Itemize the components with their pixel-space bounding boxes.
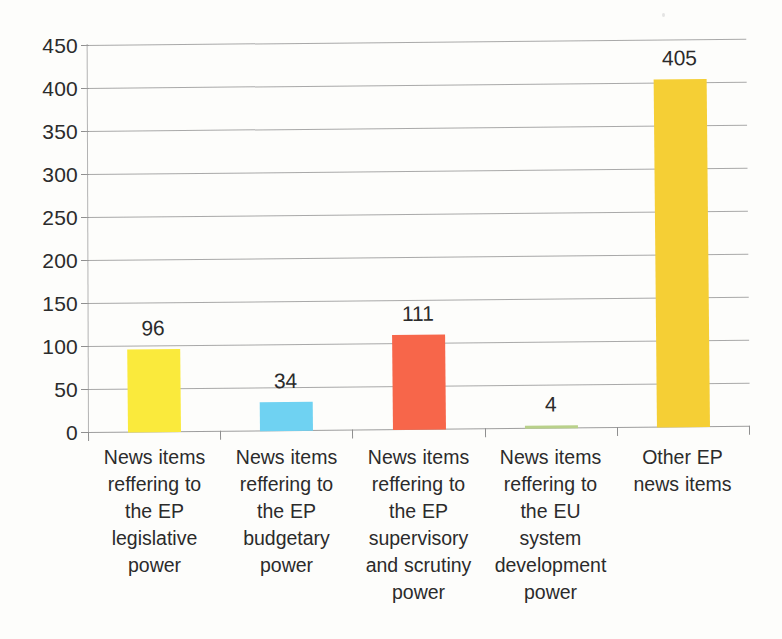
gridline-350 xyxy=(85,125,747,132)
y-tick-label-450: 450 xyxy=(16,35,78,56)
x-axis-tick xyxy=(485,428,486,437)
x-axis-label-line: the EP xyxy=(89,498,220,525)
x-axis-label-line: power xyxy=(89,552,220,579)
bar-news-items-ep-budgetary-power[interactable] xyxy=(260,402,313,432)
bar-other-ep-news-items[interactable] xyxy=(654,79,710,428)
y-tick-label-200: 200 xyxy=(16,250,78,271)
x-axis-label-category-2: News items reffering to the EP budgetary… xyxy=(221,444,352,579)
x-axis-tick xyxy=(749,426,750,435)
x-axis-label-line: development xyxy=(485,552,616,579)
x-axis-label-line: the EP xyxy=(353,498,484,525)
x-axis-label-line: reffering to xyxy=(89,471,220,498)
y-tick-label-400: 400 xyxy=(16,78,78,99)
x-axis-label-line: News items xyxy=(485,444,616,471)
x-axis-label-line: the EU xyxy=(485,498,616,525)
x-axis-category-labels: News items reffering to the EP legislati… xyxy=(88,444,750,629)
x-axis-label-line: system xyxy=(485,525,616,552)
gridline-450 xyxy=(84,39,746,46)
x-axis-label-line: power xyxy=(221,552,352,579)
x-axis-tick xyxy=(617,427,618,436)
x-axis-label-line: power xyxy=(485,579,616,606)
x-axis-label-category-1: News items reffering to the EP legislati… xyxy=(89,444,220,579)
gridline-300 xyxy=(86,168,748,175)
x-axis-label-line: News items xyxy=(353,444,484,471)
x-axis-label-line: News items xyxy=(89,444,220,471)
gridline-400 xyxy=(85,82,747,89)
y-tick-label-0: 0 xyxy=(16,422,78,443)
y-axis-tick-labels: 450 400 350 300 250 200 150 100 50 0 xyxy=(10,0,78,639)
x-axis-label-line: legislative xyxy=(89,525,220,552)
x-axis-label-category-3: News items reffering to the EP superviso… xyxy=(353,444,484,606)
x-axis-label-line: power xyxy=(353,579,484,606)
y-tick-label-350: 350 xyxy=(16,121,78,142)
x-axis-label-line: News items xyxy=(221,444,352,471)
x-axis-label-line: reffering to xyxy=(221,471,352,498)
data-label-bar-1: 96 xyxy=(113,317,193,339)
y-tick-label-250: 250 xyxy=(16,207,78,228)
bar-chart: 450 400 350 300 250 200 150 100 50 0 xyxy=(0,0,782,639)
x-axis-label-line: Other EP xyxy=(617,444,748,471)
bar-news-items-ep-legislative-power[interactable] xyxy=(127,350,181,433)
y-tick-label-300: 300 xyxy=(16,164,78,185)
x-axis-label-line: news items xyxy=(617,471,748,498)
bar-news-items-ep-supervisory-scrutiny-power[interactable] xyxy=(392,334,446,430)
gridline-200 xyxy=(86,254,748,261)
y-tick-label-100: 100 xyxy=(16,336,78,357)
data-label-bar-2: 34 xyxy=(245,369,325,391)
x-axis-label-category-5: Other EP news items xyxy=(617,444,748,498)
x-axis-label-line: and scrutiny xyxy=(353,552,484,579)
data-label-bar-4: 4 xyxy=(511,393,591,415)
bar-news-items-eu-system-development-power[interactable] xyxy=(525,425,578,429)
scan-speck xyxy=(662,13,665,17)
x-axis-tick xyxy=(88,432,89,441)
plot-area: 96 34 111 4 405 xyxy=(84,39,750,433)
x-axis-label-line: reffering to xyxy=(485,471,616,498)
x-axis-label-line: supervisory xyxy=(353,525,484,552)
x-axis-label-line: the EP xyxy=(221,498,352,525)
data-label-bar-3: 111 xyxy=(378,302,458,324)
y-tick-label-150: 150 xyxy=(16,293,78,314)
data-label-bar-5: 405 xyxy=(639,47,719,69)
gridline-250 xyxy=(86,211,748,218)
x-axis-label-line: reffering to xyxy=(353,471,484,498)
x-axis-tick xyxy=(352,429,353,438)
x-axis-label-line: budgetary xyxy=(221,525,352,552)
y-tick-label-50: 50 xyxy=(16,379,78,400)
x-axis-label-category-4: News items reffering to the EU system de… xyxy=(485,444,616,606)
x-axis-tick xyxy=(220,431,221,440)
